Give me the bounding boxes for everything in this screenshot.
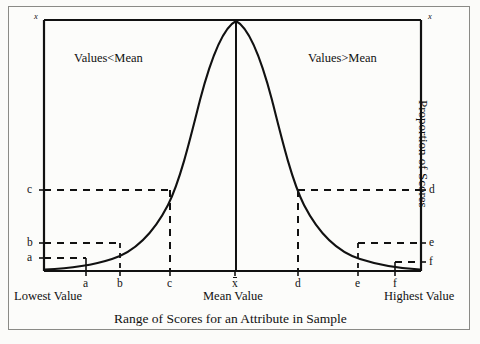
endpoint-label-highest-value: Highest Value bbox=[384, 290, 454, 303]
y-axis-label-c: c bbox=[27, 184, 32, 196]
y-axis-title: Proportion of Scores bbox=[417, 100, 430, 260]
corner-label-top-left: x bbox=[34, 12, 38, 21]
y-axis-label-a: a bbox=[27, 252, 32, 264]
x-axis-label-c: c bbox=[167, 278, 172, 290]
endpoint-label-mean-value: Mean Value bbox=[203, 290, 263, 303]
x-axis-label-f: f bbox=[393, 278, 397, 290]
x-axis-label-b: b bbox=[117, 278, 123, 290]
x-axis-label-mean: x bbox=[232, 278, 238, 290]
figure-caption: Range of Scores for an Attribute in Samp… bbox=[114, 312, 347, 326]
annotation-values-less-than-mean: Values<Mean bbox=[74, 52, 143, 65]
x-axis-label-e: e bbox=[355, 278, 360, 290]
figure-container: x x c b a d e f a b c x d e f Values<Mea… bbox=[0, 0, 480, 344]
guide-ticks-solid bbox=[86, 258, 395, 271]
corner-label-top-right: x bbox=[428, 12, 432, 21]
x-axis-label-a: a bbox=[83, 278, 88, 290]
x-axis-label-d: d bbox=[295, 278, 301, 290]
x-bar-glyph: x bbox=[232, 278, 238, 290]
guide-lines-short bbox=[120, 243, 358, 271]
guide-lines bbox=[44, 190, 421, 271]
annotation-values-greater-than-mean: Values>Mean bbox=[308, 52, 377, 65]
endpoint-label-lowest-value: Lowest Value bbox=[14, 290, 82, 303]
y-axis-label-b: b bbox=[27, 237, 33, 249]
